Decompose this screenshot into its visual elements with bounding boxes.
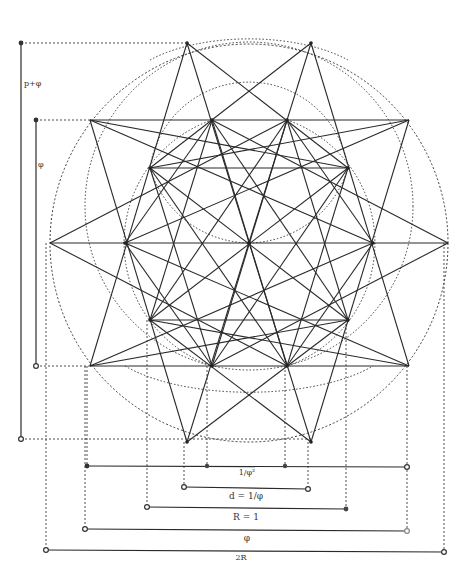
inner-upper-arc bbox=[150, 82, 348, 168]
bottom-inner-arc bbox=[125, 366, 373, 392]
inner-lower-arc bbox=[150, 168, 348, 243]
label-phi-vertical: φ bbox=[38, 160, 44, 169]
label-d: d = 1/φ bbox=[229, 491, 263, 501]
label-R: R = 1 bbox=[233, 512, 259, 522]
label-phi-horizontal: φ bbox=[244, 533, 250, 543]
label-1-over-phi-squared: 1/φ² bbox=[239, 468, 256, 477]
vertical-dimension-lines bbox=[21, 43, 36, 439]
label-p-plus-phi: p+φ bbox=[24, 79, 41, 88]
label-2R: 2R bbox=[235, 553, 246, 562]
